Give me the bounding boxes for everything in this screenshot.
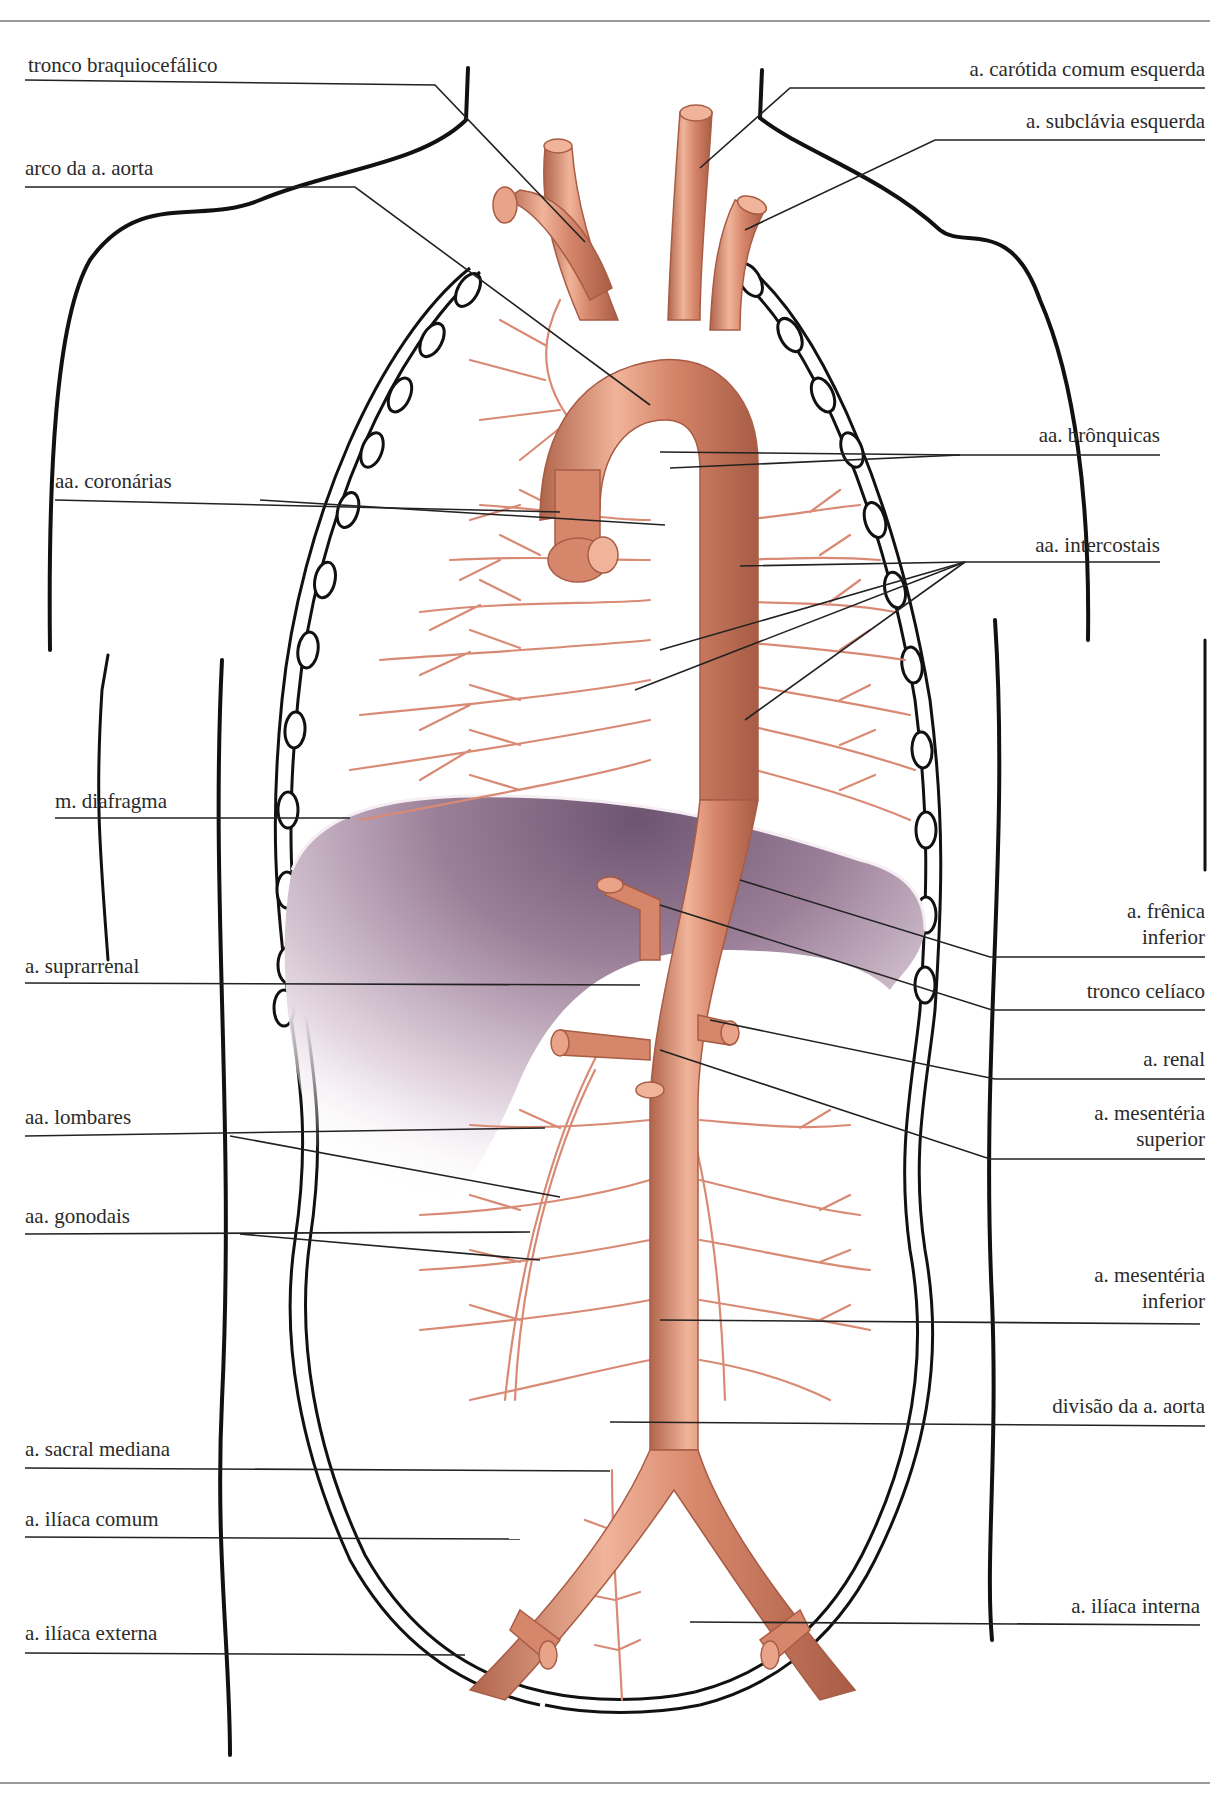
label-arco-aorta: arco da a. aorta [25,155,153,181]
label-line-1: a. mesentéria [1094,1262,1205,1288]
label-aa-lombares: aa. lombares [25,1104,131,1130]
label-aa-coronarias: aa. coronárias [55,468,172,494]
label-a-carotida-comum-esquerda: a. carótida comum esquerda [969,56,1205,82]
label-a-suprarrenal: a. suprarrenal [25,953,139,979]
label-a-frenica-inferior: a. frênica inferior [1127,898,1205,950]
label-a-sacral-mediana: a. sacral mediana [25,1436,170,1462]
label-m-diafragma: m. diafragma [55,788,167,814]
label-tronco-celiaco: tronco celíaco [1087,978,1205,1004]
label-a-mesenteria-superior: a. mesentéria superior [1094,1100,1205,1152]
label-a-iliaca-interna: a. ilíaca interna [1071,1593,1200,1619]
anatomy-illustration [0,0,1230,1793]
label-aa-intercostais: aa. intercostais [1035,532,1160,558]
label-divisao-aorta: divisão da a. aorta [1052,1393,1205,1419]
label-line-2: superior [1094,1126,1205,1152]
label-aa-gonodais: aa. gonodais [25,1203,130,1229]
label-aa-bronquicas: aa. brônquicas [1039,422,1160,448]
label-a-mesenteria-inferior: a. mesentéria inferior [1094,1262,1205,1314]
label-line-2: inferior [1127,924,1205,950]
label-a-iliaca-externa: a. ilíaca externa [25,1620,157,1646]
label-a-renal: a. renal [1143,1046,1205,1072]
label-a-subclavia-esquerda: a. subclávia esquerda [1026,108,1205,134]
label-line-1: a. frênica [1127,898,1205,924]
label-line-2: inferior [1094,1288,1205,1314]
diaphragm [285,796,925,1249]
label-tronco-braquiocefalico: tronco braquiocefálico [28,52,218,78]
label-a-iliaca-comum: a. ilíaca comum [25,1506,159,1532]
label-line-1: a. mesentéria [1094,1100,1205,1126]
